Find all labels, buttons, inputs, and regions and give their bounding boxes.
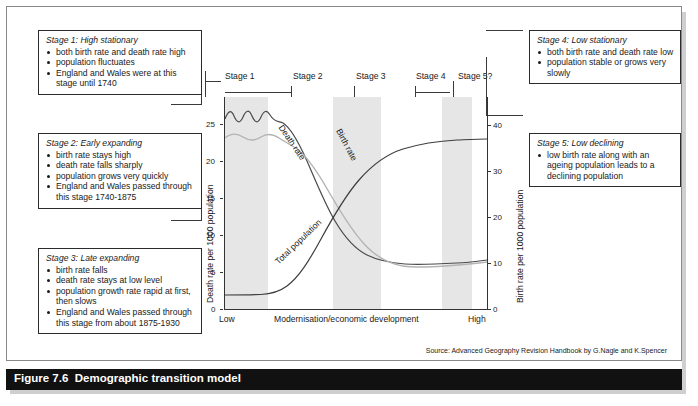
right-tick-20 — [488, 217, 491, 218]
connector-stage5 — [486, 115, 523, 116]
figure-number: Figure 7.6 — [14, 372, 68, 384]
list-item: England and Wales passed through this st… — [45, 307, 196, 328]
list-item: population stable or grows very slowly — [536, 57, 675, 78]
stage-label-1: Stage 1 — [225, 71, 255, 81]
list-item: population grows very quickly — [45, 171, 196, 182]
list-item: England and Wales were at this stage unt… — [45, 68, 196, 89]
connector-stage2 — [171, 104, 202, 105]
infobox-stage-3-list: birth rate falls death rate stays at low… — [45, 265, 196, 329]
stage5-pointer-v — [453, 81, 454, 97]
stage-label-4: Stage 4 — [416, 71, 446, 81]
left-tick-0 — [220, 309, 223, 310]
connector-stage5-v — [486, 57, 487, 116]
infobox-stage-4-title: Stage 4: Low stationary — [537, 35, 675, 46]
infobox-stage-1: Stage 1: High stationary both birth rate… — [38, 30, 202, 95]
y-axis-right-title: Birth rate per 1000 population — [515, 190, 525, 303]
infobox-stage-2-title: Stage 2: Early expanding — [46, 138, 196, 149]
x-axis — [224, 309, 488, 310]
infobox-stage-2: Stage 2: Early expanding birth rate stay… — [38, 133, 202, 209]
y-axis-left-title: Death rate per 1000 population — [205, 185, 215, 304]
infobox-stage-5-title: Stage 5: Low declining — [537, 138, 675, 149]
infobox-stage-1-list: both birth rate and death rate high popu… — [45, 47, 196, 89]
left-tick-label-20: 20 — [206, 157, 215, 166]
connector-stage3 — [171, 220, 202, 221]
source-note: Source: Advanced Geography Revision Hand… — [426, 347, 667, 354]
right-tick-0 — [488, 309, 491, 310]
stage1-pointer-v — [205, 71, 206, 97]
infobox-stage-1-title: Stage 1: High stationary — [46, 35, 196, 46]
infobox-stage-2-list: birth rate stays high death rate falls s… — [45, 150, 196, 203]
stage2-pointer-h — [225, 92, 292, 93]
list-item: both birth rate and death rate low — [536, 47, 675, 58]
list-item: birth rate falls — [45, 265, 196, 276]
infobox-stage-4: Stage 4: Low stationary both birth rate … — [529, 30, 681, 84]
left-tick-20 — [220, 161, 223, 162]
stage1-pointer-h — [205, 81, 221, 82]
left-tick-25 — [220, 124, 223, 125]
total-population-curve — [225, 139, 487, 295]
right-tick-label-40: 40 — [493, 121, 502, 130]
chart-region: Stage 1 Stage 2 Stage 3 Stage 4 Stage 5?… — [203, 59, 523, 325]
figure-title: Demographic transition model — [75, 372, 241, 384]
stage-label-5: Stage 5? — [458, 71, 492, 81]
infobox-stage-5: Stage 5: Low declining low birth rate al… — [529, 133, 681, 187]
right-tick-10 — [488, 263, 491, 264]
list-item: death rate falls sharply — [45, 160, 196, 171]
right-tick-label-20: 20 — [493, 213, 502, 222]
stage3-pointer-v — [354, 86, 355, 97]
y-axis-left — [224, 97, 225, 310]
stage-label-3: Stage 3 — [356, 71, 386, 81]
figure-shadow-right — [682, 12, 686, 390]
list-item: low birth rate along with an ageing popu… — [536, 150, 675, 182]
x-tick-label-high: High — [468, 314, 486, 324]
plot-area: Death rate Birth rate Total population — [225, 97, 487, 309]
list-item: death rate stays at low level — [45, 275, 196, 286]
left-tick-label-0: 0 — [211, 305, 215, 314]
left-tick-label-25: 25 — [206, 120, 215, 129]
figure-caption-bar: Figure 7.6 Demographic transition model — [6, 369, 682, 390]
figure-frame: Stage 1 Stage 2 Stage 3 Stage 4 Stage 5?… — [6, 6, 682, 361]
right-tick-label-10: 10 — [493, 259, 502, 268]
left-tick-15 — [220, 198, 223, 199]
connector-stage4 — [486, 30, 523, 31]
stage4-pointer-h — [415, 92, 450, 93]
list-item: birth rate stays high — [45, 150, 196, 161]
stage-label-2: Stage 2 — [293, 71, 323, 81]
death-rate-curve — [225, 111, 487, 264]
list-item: population fluctuates — [45, 57, 196, 68]
curves-svg — [225, 97, 487, 309]
left-tick-5 — [220, 272, 223, 273]
x-tick-label-low: Low — [219, 314, 235, 324]
right-tick-label-30: 30 — [493, 167, 502, 176]
list-item: both birth rate and death rate high — [45, 47, 196, 58]
infobox-stage-3: Stage 3: Late expanding birth rate falls… — [38, 248, 202, 334]
right-tick-label-0: 0 — [493, 305, 497, 314]
infobox-stage-4-list: both birth rate and death rate low popul… — [536, 47, 675, 79]
figure-shadow-bottom — [10, 390, 686, 394]
list-item: England and Wales passed through this st… — [45, 181, 196, 202]
left-tick-10 — [220, 235, 223, 236]
infobox-stage-5-list: low birth rate along with an ageing popu… — [536, 150, 675, 182]
list-item: population growth rate rapid at first, t… — [45, 286, 196, 307]
figure-caption: Figure 7.6 Demographic transition model — [14, 372, 241, 384]
right-tick-30 — [488, 171, 491, 172]
x-axis-title: Modernisation/economic development — [274, 314, 419, 324]
y-axis-right — [487, 97, 488, 310]
right-tick-40 — [488, 125, 491, 126]
infobox-stage-3-title: Stage 3: Late expanding — [46, 253, 196, 264]
